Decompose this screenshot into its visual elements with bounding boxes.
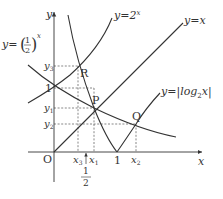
- x-axis-label: x: [198, 155, 205, 168]
- svg-text:y=: y=: [1, 38, 17, 51]
- label-exp2: y=2x: [113, 9, 140, 22]
- svg-text:1: 1: [83, 166, 89, 176]
- svg-text:2: 2: [83, 178, 89, 188]
- tick-y1: y1: [43, 102, 53, 114]
- label-abs-log: y=|log2x|: [160, 85, 212, 100]
- svg-text:2: 2: [25, 46, 30, 55]
- tick-y-one: 1: [45, 82, 52, 95]
- curve-exp2: [28, 18, 112, 103]
- label-half-exp: y= ( 1 2 ) x: [1, 32, 41, 55]
- point-Q-label: Q: [132, 110, 141, 123]
- svg-text:1: 1: [25, 36, 30, 45]
- tick-y3: y3: [43, 60, 54, 72]
- y-axis-label: y: [45, 8, 53, 21]
- tick-x2: x2: [131, 154, 141, 166]
- origin-label: O: [43, 153, 52, 166]
- tick-y2: y2: [43, 118, 54, 130]
- function-graph: y=2x y=x y= ( 1 2 ) x y=|log2x| y x O R …: [0, 0, 223, 199]
- curve-abs-log-left: [68, 15, 117, 152]
- svg-text:x: x: [37, 32, 41, 40]
- label-identity: y=x: [183, 14, 206, 27]
- tick-x-one: 1: [114, 154, 121, 167]
- point-R-label: R: [80, 67, 89, 80]
- tick-x3: x3: [73, 154, 83, 166]
- point-P-label: P: [92, 94, 100, 107]
- tick-x1: x1: [89, 154, 98, 166]
- tick-half: 1 2: [81, 166, 91, 188]
